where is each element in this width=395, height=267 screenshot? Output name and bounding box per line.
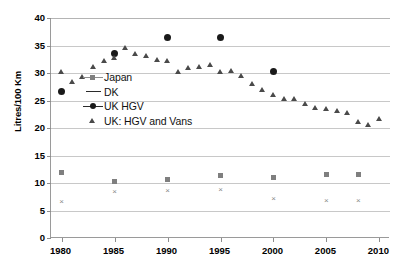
data-point (228, 68, 234, 73)
y-tick-mark (47, 101, 51, 102)
x-tick-mark (168, 238, 169, 242)
x-tick-mark (62, 238, 63, 242)
data-point (259, 87, 265, 92)
legend-label: UK: HGV and Vans (104, 115, 192, 127)
data-point (207, 62, 213, 67)
x-tick-mark (115, 238, 116, 242)
gridline (51, 183, 390, 184)
legend-item[interactable]: UK HGV (82, 99, 192, 114)
data-point (344, 110, 350, 115)
data-point (154, 57, 160, 62)
gridline (51, 128, 390, 129)
data-point (143, 53, 149, 58)
gridline (51, 156, 390, 157)
gridline (51, 211, 390, 212)
data-point (281, 96, 287, 101)
x-tick-label: 1990 (147, 245, 187, 256)
data-point (324, 172, 329, 177)
y-tick-mark (47, 156, 51, 157)
x-tick-label: 1980 (41, 245, 81, 256)
data-point (365, 122, 371, 127)
data-point (112, 179, 117, 184)
x-tick-label: 2005 (305, 245, 345, 256)
data-point (122, 45, 128, 50)
data-point: × (323, 197, 330, 204)
x-tick-label: 2000 (252, 245, 292, 256)
legend-marker-icon (82, 70, 104, 84)
x-tick-mark (273, 238, 274, 242)
legend-label: Japan (104, 71, 132, 83)
data-point (217, 69, 223, 74)
data-point (58, 88, 65, 95)
data-point (271, 175, 276, 180)
data-point (132, 51, 138, 56)
data-point (164, 34, 171, 41)
data-point (249, 81, 255, 86)
x-tick-mark (221, 238, 222, 242)
data-point (218, 173, 223, 178)
data-point: × (217, 186, 224, 193)
data-point (334, 108, 340, 113)
legend-item[interactable]: Japan (82, 70, 192, 85)
data-point (291, 96, 297, 101)
legend-marker-icon (82, 99, 104, 113)
x-tick-label: 1985 (94, 245, 134, 256)
data-point (355, 119, 361, 124)
y-tick-mark (47, 73, 51, 74)
x-tick-mark (326, 238, 327, 242)
y-tick-mark (47, 18, 51, 19)
data-point (111, 55, 117, 60)
chart-figure: Litres/100 Km 0510152025303540 198019851… (0, 0, 395, 267)
data-point (69, 79, 75, 84)
data-point: × (355, 197, 362, 204)
data-point: × (270, 195, 277, 202)
data-point (164, 58, 170, 63)
data-point (323, 106, 329, 111)
data-point (356, 172, 361, 177)
data-point (101, 58, 107, 63)
plot-area: ××××××× (50, 18, 389, 238)
legend-marker-icon (82, 85, 104, 99)
x-tick-label: 2010 (358, 245, 395, 256)
data-point (217, 34, 224, 41)
gridline (51, 46, 390, 47)
data-point: × (164, 187, 171, 194)
y-tick-mark (47, 183, 51, 184)
y-tick-mark (47, 238, 51, 239)
data-point (312, 105, 318, 110)
data-point (58, 69, 64, 74)
gridline (51, 18, 390, 19)
y-tick-mark (47, 46, 51, 47)
legend-label: UK HGV (104, 100, 144, 112)
legend-label: DK (104, 86, 118, 98)
data-point (238, 73, 244, 78)
y-tick-mark (47, 211, 51, 212)
legend-item[interactable]: UK: HGV and Vans (82, 114, 192, 129)
data-point (270, 68, 277, 75)
data-point (270, 92, 276, 97)
legend-marker-icon (82, 114, 104, 128)
x-tick-mark (379, 238, 380, 242)
data-point (90, 64, 96, 69)
data-point (59, 170, 64, 175)
data-point (302, 101, 308, 106)
data-point: × (58, 198, 65, 205)
data-point (196, 64, 202, 69)
data-point (165, 177, 170, 182)
data-point: × (111, 188, 118, 195)
chart-legend: JapanDKUK HGVUK: HGV and Vans (82, 70, 192, 128)
x-tick-label: 1995 (200, 245, 240, 256)
y-tick-mark (47, 128, 51, 129)
data-point (376, 116, 382, 121)
legend-item[interactable]: DK (82, 85, 192, 100)
